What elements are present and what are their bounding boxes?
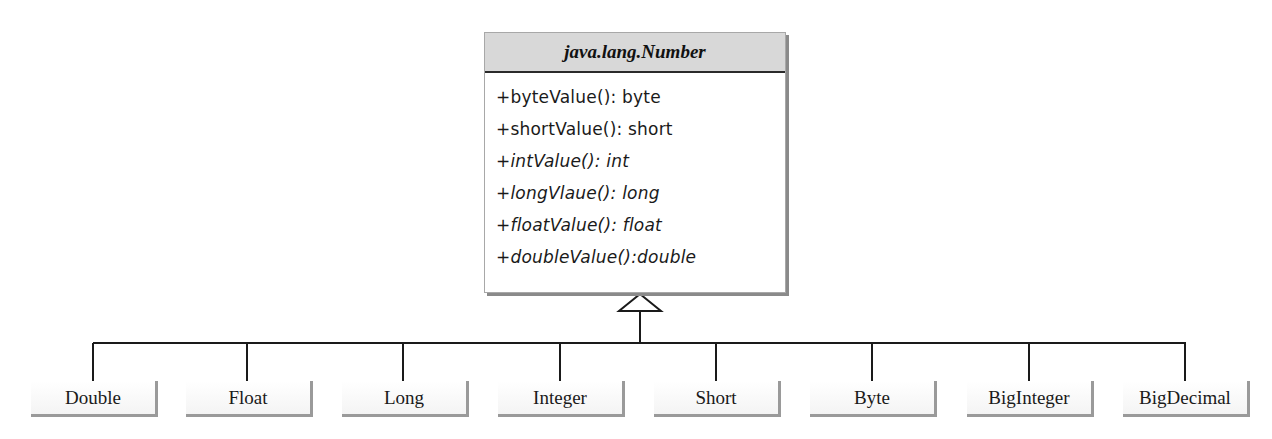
class-box-float: Float [186,381,313,417]
class-box-short: Short [654,381,781,417]
method-byteValue: +byteValue(): byte [496,81,785,113]
class-box-byte: Byte [810,381,937,417]
class-box-double: Double [31,381,158,417]
class-box-bigdecimal: BigDecimal [1123,381,1250,417]
method-shortValue: +shortValue(): short [496,113,785,145]
class-box-number: java.lang.Number +byteValue(): byte +sho… [484,32,786,293]
class-box-long: Long [342,381,469,417]
method-list: +byteValue(): byte +shortValue(): short … [485,73,785,273]
method-floatValue: +floatValue(): float [496,209,785,241]
method-doubleValue: +doubleValue():double [496,241,785,273]
method-intValue: +intValue(): int [496,145,785,177]
generalization-arrow-icon [619,294,661,311]
class-box-integer: Integer [498,381,625,417]
class-name-number: java.lang.Number [485,33,785,73]
class-box-biginteger: BigInteger [967,381,1094,417]
method-longValue: +longVlaue(): long [496,177,785,209]
